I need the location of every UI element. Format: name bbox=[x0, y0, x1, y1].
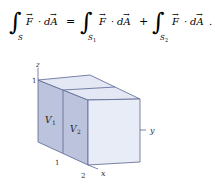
front-face bbox=[88, 99, 140, 165]
x-axis-label: x bbox=[101, 169, 106, 178]
region-v1-subscript: 1 bbox=[52, 119, 56, 126]
x-tick-1: 1 bbox=[55, 159, 59, 167]
y-axis-label: y bbox=[149, 126, 155, 135]
x-tick-2: 2 bbox=[81, 172, 85, 180]
split-box-diagram: z 1 V 1 V 2 y x 1 2 bbox=[0, 0, 215, 191]
x-axis-line bbox=[88, 165, 98, 169]
z-axis-label: z bbox=[35, 61, 40, 69]
z-tick-1: 1 bbox=[32, 77, 36, 85]
region-v2-subscript: 2 bbox=[77, 128, 81, 135]
